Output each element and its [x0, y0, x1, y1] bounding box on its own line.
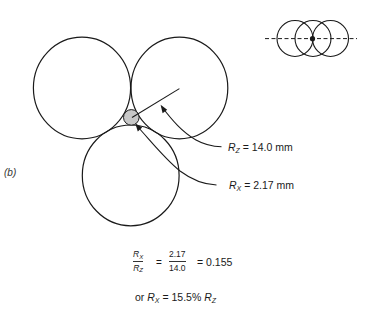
equals-sign: =: [156, 257, 162, 268]
line2-sub2: Z: [212, 297, 216, 304]
percentage-equation: or RX = 15.5% RZ: [135, 292, 216, 303]
large-sphere-top-right: [131, 37, 228, 139]
rz-symbol: R: [228, 141, 236, 153]
large-sphere-bottom: [82, 125, 179, 226]
small-interstitial-sphere: [124, 110, 140, 126]
ratio-numerator: RX: [133, 250, 143, 261]
rx-symbol: R: [229, 179, 237, 191]
panel-label: (b): [4, 167, 16, 178]
rz-label: RZ = 14.0 mm: [228, 142, 293, 153]
or-word: or: [135, 291, 144, 303]
rx-subscript: X: [237, 185, 242, 192]
value-numerator: 2.17: [169, 250, 186, 261]
rz-value: = 14.0 mm: [243, 141, 293, 153]
rx-leader-arrow: [137, 126, 217, 185]
large-spheres: [33, 37, 227, 226]
rz-subscript: Z: [236, 147, 240, 154]
sphere-packing-diagram: [0, 0, 374, 309]
ratio-result: = 0.155: [197, 257, 232, 268]
line2-middle: = 15.5%: [162, 291, 201, 303]
rx-label: RX = 2.17 mm: [229, 180, 294, 191]
line2-sub: X: [155, 297, 160, 304]
large-sphere-top-left: [33, 37, 130, 139]
inset-side-view: [265, 21, 357, 57]
value-denominator: 14.0: [169, 262, 186, 273]
rx-value: = 2.17 mm: [244, 179, 294, 191]
inset-center-dot: [310, 36, 315, 41]
ratio-fraction: RX RZ: [133, 250, 143, 272]
rz-leader-arrow: [162, 107, 222, 147]
value-fraction: 2.17 14.0: [169, 250, 186, 272]
ratio-den-sub: Z: [139, 267, 143, 273]
ratio-num-sub: X: [139, 254, 143, 260]
line2-symbol2: R: [204, 291, 212, 303]
line2-symbol: R: [147, 291, 155, 303]
radius-line: [132, 89, 179, 118]
ratio-denominator: RZ: [133, 262, 143, 273]
